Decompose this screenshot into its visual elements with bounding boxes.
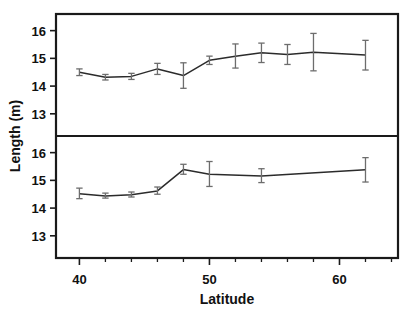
y-tick-label-top-panel-15: 15	[32, 51, 46, 66]
y-tick-label-bottom-panel-13: 13	[32, 229, 46, 244]
latitude-length-figure: 1314151613141516405060 Latitude Length (…	[0, 0, 415, 313]
y-axis-label: Length (m)	[7, 100, 23, 172]
x-tick-label-40: 40	[72, 272, 86, 287]
y-tick-label-top-panel-13: 13	[32, 107, 46, 122]
x-tick-label-50: 50	[202, 272, 216, 287]
y-tick-label-bottom-panel-16: 16	[32, 146, 46, 161]
y-tick-label-top-panel-16: 16	[32, 24, 46, 39]
y-tick-label-top-panel-14: 14	[32, 79, 47, 94]
x-tick-label-60: 60	[332, 272, 346, 287]
figure-background	[0, 0, 415, 313]
y-tick-label-bottom-panel-15: 15	[32, 173, 46, 188]
x-axis-label: Latitude	[200, 291, 255, 307]
y-tick-label-bottom-panel-14: 14	[32, 201, 47, 216]
